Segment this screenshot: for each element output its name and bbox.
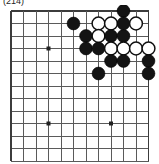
white-stone[interactable] <box>117 42 130 55</box>
black-stone[interactable] <box>117 30 130 43</box>
black-stone[interactable] <box>142 67 155 80</box>
white-stone[interactable] <box>130 42 143 55</box>
white-stone[interactable] <box>92 30 105 43</box>
white-stone[interactable] <box>142 42 155 55</box>
black-stone[interactable] <box>92 42 105 55</box>
white-stone[interactable] <box>105 17 118 30</box>
black-stone[interactable] <box>67 17 80 30</box>
star-point <box>47 122 51 126</box>
black-stone[interactable] <box>117 17 130 30</box>
black-stone[interactable] <box>92 67 105 80</box>
white-stone[interactable] <box>130 17 143 30</box>
star-point <box>109 122 113 126</box>
star-point <box>47 47 51 51</box>
go-diagram-figure: (214) <box>0 0 159 164</box>
black-stone[interactable] <box>105 30 118 43</box>
black-stone[interactable] <box>117 55 130 68</box>
go-board-canvas[interactable] <box>0 5 159 164</box>
black-stone[interactable] <box>117 5 130 17</box>
white-stone[interactable] <box>92 17 105 30</box>
white-stone[interactable] <box>105 42 118 55</box>
black-stone[interactable] <box>105 55 118 68</box>
black-stone[interactable] <box>80 42 93 55</box>
go-board[interactable] <box>0 5 159 164</box>
black-stone[interactable] <box>80 30 93 43</box>
black-stone[interactable] <box>142 55 155 68</box>
